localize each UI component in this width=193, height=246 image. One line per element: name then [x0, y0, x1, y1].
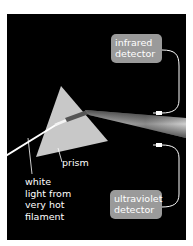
light-source-label-line-4: filament: [25, 211, 71, 223]
prism-shape: [36, 86, 108, 157]
ultraviolet-detector-box: ultraviolet detector: [110, 190, 162, 219]
prism-label: prism: [62, 157, 89, 169]
light-source-label-line-3: very hot: [25, 199, 71, 211]
ultraviolet-detector-label-line-2: detector: [114, 204, 158, 215]
light-source-label-line-1: white: [25, 176, 71, 188]
light-source-label: white light from very hot filament: [25, 176, 71, 222]
light-source-label-line-2: light from: [25, 188, 71, 200]
ultraviolet-connector-cable: [162, 145, 179, 207]
infrared-connector-cable: [162, 50, 179, 113]
infrared-plug-icon: [153, 111, 162, 115]
infrared-detector-label-line-2: detector: [115, 48, 158, 59]
white-light-leader-line: [28, 138, 32, 174]
infrared-detector-box: infrared detector: [111, 34, 162, 63]
ultraviolet-detector-label-line-1: ultraviolet: [114, 193, 158, 204]
diagram-panel: infrared detector ultraviolet detector p…: [7, 14, 186, 240]
infrared-detector-label-line-1: infrared: [115, 37, 158, 48]
ultraviolet-plug-icon: [153, 143, 162, 147]
